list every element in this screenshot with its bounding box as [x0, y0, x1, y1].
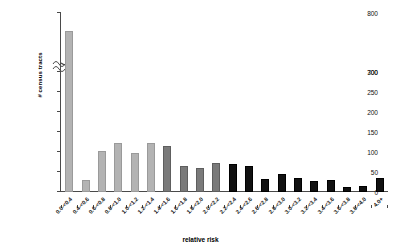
bar-slot: [77, 13, 93, 192]
bar: [229, 164, 237, 192]
bar: [131, 153, 139, 192]
x-label-slot: 2.0-<2.2: [208, 196, 224, 236]
bar-slot: [143, 13, 159, 192]
x-label-slot: 2.6-<2.8: [257, 196, 273, 236]
bar: [327, 180, 335, 192]
bar-slot: [224, 13, 240, 192]
plot-area: 050100150200250300700800: [61, 13, 388, 192]
bar-slot: [94, 13, 110, 192]
x-label-slot: 1.8-<2.0: [192, 196, 208, 236]
bar-slot: [273, 13, 289, 192]
x-label-slot: 3.8-<4.0: [355, 196, 371, 236]
x-label-slot: 3.2-<3.4: [306, 196, 322, 236]
x-label-slot: 2.4-<2.6: [241, 196, 257, 236]
x-label-slot: 0.6-<0.8: [94, 196, 110, 236]
x-label-slot: 3.6-<3.8: [339, 196, 355, 236]
bar-series: [61, 13, 388, 192]
y-axis-title: # census tracts: [37, 37, 43, 113]
bar-slot: [110, 13, 126, 192]
bar-slot: [323, 13, 339, 192]
x-axis-tick-label: 0.0-<0.4: [55, 196, 74, 215]
x-label-slot: 3.0-<3.2: [290, 196, 306, 236]
x-label-slot: 1.4-<1.6: [159, 196, 175, 236]
bar-slot: [339, 13, 355, 192]
bar: [196, 168, 204, 192]
x-axis-tick-labels: 0.0-<0.40.4-<0.60.6-<0.80.8-<1.01.0-<1.2…: [61, 196, 388, 236]
x-label-slot: 2.2-<2.4: [224, 196, 240, 236]
bar: [212, 163, 220, 192]
bar: [294, 178, 302, 192]
bar-slot: [241, 13, 257, 192]
bar-slot: [257, 13, 273, 192]
bar: [278, 174, 286, 192]
bar: [261, 179, 269, 192]
x-label-slot: 2.8-<3.0: [273, 196, 289, 236]
bar: [65, 31, 73, 193]
bar: [376, 178, 384, 192]
bar: [82, 180, 90, 192]
bar: [98, 151, 106, 192]
bar-slot: [290, 13, 306, 192]
x-label-slot: 1.6-<1.8: [175, 196, 191, 236]
x-label-slot: 3.4-<3.6: [323, 196, 339, 236]
bar: [343, 187, 351, 192]
x-axis-title: relative risk: [0, 236, 401, 243]
bar: [147, 143, 155, 192]
x-label-slot: 4.0+: [372, 196, 388, 236]
bar-slot: [208, 13, 224, 192]
bar-slot: [126, 13, 142, 192]
bar: [359, 186, 367, 192]
bar-slot: [306, 13, 322, 192]
bar-slot: [192, 13, 208, 192]
x-label-slot: 0.8-<1.0: [110, 196, 126, 236]
bar: [245, 166, 253, 192]
x-label-slot: 0.0-<0.4: [61, 196, 77, 236]
x-label-slot: 0.4-<0.6: [77, 196, 93, 236]
bar: [114, 143, 122, 192]
bar-slot: [372, 13, 388, 192]
x-label-slot: 1.0-<1.2: [126, 196, 142, 236]
bar: [163, 146, 171, 192]
x-label-slot: 1.2-<1.4: [143, 196, 159, 236]
bar-slot: [175, 13, 191, 192]
bar-slot: [159, 13, 175, 192]
x-axis-tick-label: 4.0+: [372, 196, 384, 208]
bar-slot: [355, 13, 371, 192]
bar-slot: [61, 13, 77, 192]
bar: [180, 166, 188, 192]
histogram-chart: # census tracts 050100150200250300700800…: [0, 0, 401, 250]
bar: [310, 181, 318, 192]
